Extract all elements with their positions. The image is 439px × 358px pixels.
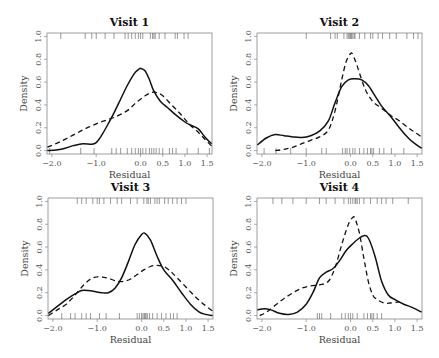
- x-tick-label: −1.0: [87, 159, 106, 168]
- y-tick-label: 0.8: [244, 53, 253, 66]
- y-tick-label: 0.6: [244, 241, 253, 254]
- panel-3: Visit 3−2.0−1.00.00.51.01.50.00.20.40.60…: [19, 181, 214, 345]
- y-tick-label: 0.6: [35, 241, 44, 254]
- figure: Visit 1−2.0−1.00.00.51.01.50.00.20.40.60…: [0, 0, 439, 358]
- y-tick-label: 0.0: [34, 144, 43, 157]
- x-tick-label: 1.0: [389, 324, 402, 333]
- x-tick-label: −2.0: [252, 324, 271, 333]
- y-tick-label: 0.4: [244, 264, 253, 277]
- x-tick-label: 1.5: [201, 159, 214, 168]
- panel-4: Visit 4−2.0−1.00.00.51.01.50.00.20.40.60…: [228, 181, 423, 345]
- y-tick-label: 0.8: [34, 53, 43, 66]
- density-curve-dashed: [48, 265, 212, 315]
- x-tick-label: 1.5: [411, 159, 424, 168]
- panel-title: Visit 1: [109, 16, 149, 29]
- y-tick-label: 0.8: [244, 218, 253, 231]
- y-tick-label: 1.0: [244, 195, 253, 208]
- x-tick-label: −1.0: [297, 324, 316, 333]
- y-tick-label: 1.0: [35, 195, 44, 208]
- x-axis-label: Residual: [319, 334, 361, 345]
- y-tick-label: 0.2: [35, 286, 44, 299]
- y-tick-label: 1.0: [34, 30, 43, 43]
- panel-title: Visit 2: [319, 16, 359, 29]
- x-tick-label: 0.5: [366, 159, 379, 168]
- x-tick-label: 0.0: [344, 324, 357, 333]
- y-tick-label: 0.4: [34, 99, 43, 112]
- panels-container: Visit 1−2.0−1.00.00.51.01.50.00.20.40.60…: [18, 16, 423, 345]
- x-tick-label: −2.0: [42, 159, 61, 168]
- y-tick-label: 0.8: [35, 218, 44, 231]
- density-curve-solid: [48, 233, 212, 316]
- y-tick-label: 0.2: [244, 121, 253, 134]
- x-tick-label: −2.0: [252, 159, 271, 168]
- y-tick-label: 1.0: [244, 30, 253, 43]
- y-axis-label: Density: [228, 240, 239, 277]
- y-tick-label: 0.0: [35, 309, 44, 322]
- x-axis-label: Residual: [109, 169, 151, 180]
- y-tick-label: 0.0: [244, 144, 253, 157]
- x-tick-label: 1.5: [202, 324, 215, 333]
- x-tick-label: 1.0: [389, 159, 402, 168]
- x-tick-label: 0.5: [157, 324, 170, 333]
- x-tick-label: 1.0: [180, 324, 193, 333]
- x-tick-label: 0.5: [366, 324, 379, 333]
- panel-title: Visit 4: [319, 181, 360, 194]
- panel-1: Visit 1−2.0−1.00.00.51.01.50.00.20.40.60…: [18, 16, 213, 180]
- y-axis-label: Density: [19, 240, 30, 277]
- density-curve-dashed: [275, 53, 421, 151]
- x-tick-label: 1.5: [411, 324, 424, 333]
- x-tick-label: −1.0: [88, 324, 107, 333]
- x-tick-label: −2.0: [43, 324, 62, 333]
- density-curve-solid: [257, 79, 421, 149]
- y-tick-label: 0.6: [34, 76, 43, 89]
- x-tick-label: 0.0: [135, 324, 148, 333]
- y-tick-label: 0.4: [35, 264, 44, 277]
- density-curve-solid: [47, 68, 211, 150]
- y-tick-label: 0.4: [244, 99, 253, 112]
- x-tick-label: −1.0: [297, 159, 316, 168]
- y-tick-label: 0.0: [244, 309, 253, 322]
- x-tick-label: 0.0: [134, 159, 147, 168]
- y-axis-label: Density: [18, 75, 29, 112]
- x-axis-label: Residual: [110, 334, 152, 345]
- y-tick-label: 0.2: [244, 286, 253, 299]
- x-tick-label: 0.0: [344, 159, 357, 168]
- x-tick-label: 0.5: [156, 159, 169, 168]
- density-curve-dashed: [260, 217, 400, 316]
- y-axis-label: Density: [228, 75, 239, 112]
- panel-title: Visit 3: [110, 181, 150, 194]
- density-curve-dashed: [47, 92, 211, 147]
- y-tick-label: 0.2: [34, 121, 43, 134]
- y-tick-label: 0.6: [244, 76, 253, 89]
- x-tick-label: 1.0: [179, 159, 192, 168]
- x-axis-label: Residual: [319, 169, 361, 180]
- panel-2: Visit 2−2.0−1.00.00.51.01.50.00.20.40.60…: [228, 16, 423, 180]
